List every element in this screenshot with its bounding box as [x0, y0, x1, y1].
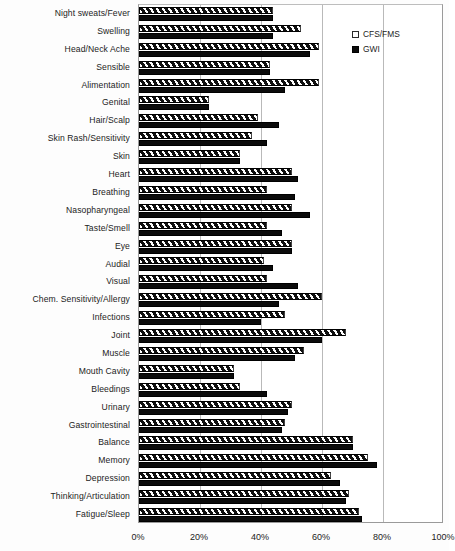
legend-item-gwi: GWI — [352, 44, 438, 54]
bar-gwi — [139, 140, 267, 146]
category-label: Sensible — [96, 62, 130, 72]
bar-row — [139, 220, 442, 238]
bar-cfs-fms — [139, 508, 359, 515]
category-label: Joint — [111, 330, 130, 340]
category-label: Depression — [86, 473, 130, 483]
category-label: Bleedings — [91, 384, 130, 394]
bar-row — [139, 363, 442, 381]
bar-gwi — [139, 176, 298, 182]
bar-gwi — [139, 355, 295, 361]
bar-cfs-fms — [139, 240, 292, 247]
chart-legend: CFS/FMS GWI — [352, 29, 438, 59]
bar-row — [139, 238, 442, 256]
bar-gwi — [139, 391, 267, 397]
category-label: Eye — [115, 241, 130, 251]
bar-gwi — [139, 104, 209, 110]
category-label: Visual — [106, 276, 130, 286]
category-label: Night sweats/Fever — [55, 8, 130, 18]
bar-row — [139, 488, 442, 506]
category-label: Skin Rash/Sensitivity — [48, 133, 130, 143]
bar-row — [139, 94, 442, 112]
bar-row — [139, 5, 442, 23]
bar-gwi — [139, 122, 279, 128]
bar-gwi — [139, 194, 295, 200]
bar-cfs-fms — [139, 293, 322, 300]
category-label: Thinking/Articulation — [51, 491, 130, 501]
bar-cfs-fms — [139, 275, 267, 282]
bar-row — [139, 166, 442, 184]
x-tick-label: 80% — [373, 532, 391, 542]
legend-label-gwi: GWI — [363, 44, 380, 54]
bar-row — [139, 381, 442, 399]
bar-cfs-fms — [139, 472, 331, 479]
bar-cfs-fms — [139, 25, 301, 32]
bar-cfs-fms — [139, 204, 292, 211]
bar-gwi — [139, 69, 270, 75]
category-label: Urinary — [102, 402, 130, 412]
bar-cfs-fms — [139, 43, 319, 50]
category-label: Hair/Scalp — [89, 115, 130, 125]
category-label: Balance — [98, 437, 130, 447]
bar-row — [139, 112, 442, 130]
x-tick-label: 40% — [251, 532, 269, 542]
bar-row — [139, 452, 442, 470]
bar-gwi — [139, 87, 285, 93]
legend-swatch-cfs-fms-icon — [352, 31, 359, 38]
bar-gwi — [139, 265, 273, 271]
category-label: Genital — [102, 97, 130, 107]
bar-gwi — [139, 319, 261, 325]
bar-row — [139, 273, 442, 291]
x-tick-label: 0% — [131, 532, 144, 542]
bar-gwi — [139, 15, 273, 21]
bar-gwi — [139, 51, 310, 57]
bar-gwi — [139, 33, 273, 39]
bar-row — [139, 256, 442, 274]
bar-cfs-fms — [139, 150, 240, 157]
bar-row — [139, 148, 442, 166]
bar-cfs-fms — [139, 329, 346, 336]
bar-rows — [139, 5, 442, 522]
bar-gwi — [139, 516, 362, 522]
bar-cfs-fms — [139, 347, 304, 354]
category-label: Nasopharyngeal — [66, 205, 130, 215]
category-label: Fatigue/Sleep — [76, 509, 130, 519]
category-axis-labels: Night sweats/FeverSwellingHead/Neck Ache… — [0, 4, 134, 523]
bar-cfs-fms — [139, 96, 209, 103]
bar-row — [139, 77, 442, 95]
bar-gwi — [139, 337, 322, 343]
bar-cfs-fms — [139, 79, 319, 86]
bar-cfs-fms — [139, 61, 270, 68]
bar-row — [139, 59, 442, 77]
bar-cfs-fms — [139, 222, 267, 229]
category-label: Mouth Cavity — [79, 366, 130, 376]
category-label: Audial — [106, 259, 131, 269]
bar-gwi — [139, 158, 240, 164]
bar-cfs-fms — [139, 114, 258, 121]
legend-swatch-gwi-icon — [352, 46, 359, 53]
bar-gwi — [139, 409, 288, 415]
plot-area — [138, 4, 443, 523]
bar-row — [139, 309, 442, 327]
bar-cfs-fms — [139, 490, 349, 497]
bar-cfs-fms — [139, 186, 267, 193]
bar-gwi — [139, 444, 353, 450]
bar-gwi — [139, 427, 282, 433]
category-label: Muscle — [102, 348, 130, 358]
bar-row — [139, 470, 442, 488]
x-axis: 0%20%40%60%80%100% — [138, 524, 443, 548]
category-label: Gastrointestinal — [69, 420, 130, 430]
category-label: Head/Neck Ache — [65, 44, 130, 54]
bar-row — [139, 435, 442, 453]
category-label: Alimentation — [82, 80, 131, 90]
bar-row — [139, 184, 442, 202]
bar-gwi — [139, 301, 279, 307]
bar-gwi — [139, 462, 377, 468]
bar-cfs-fms — [139, 168, 292, 175]
bar-row — [139, 345, 442, 363]
bar-gwi — [139, 212, 310, 218]
bar-row — [139, 506, 442, 524]
category-label: Taste/Smell — [84, 223, 130, 233]
bar-cfs-fms — [139, 401, 292, 408]
category-label: Chem. Sensitivity/Allergy — [32, 294, 130, 304]
